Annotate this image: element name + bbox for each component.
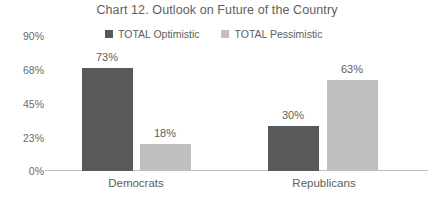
x-category-label-democrats: Democrats bbox=[108, 177, 164, 189]
y-tick-23: 23% bbox=[2, 132, 44, 144]
bar-label-democrats-optimistic: 73% bbox=[96, 51, 118, 63]
chart-title: Chart 12. Outlook on Future of the Count… bbox=[0, 3, 434, 17]
bar-democrats-optimistic[interactable] bbox=[82, 68, 133, 171]
bar-label-republicans-pessimistic: 63% bbox=[341, 63, 363, 75]
bar-label-democrats-pessimistic: 18% bbox=[154, 127, 176, 139]
bar-label-republicans-optimistic: 30% bbox=[282, 109, 304, 121]
bar-republicans-optimistic[interactable] bbox=[268, 126, 319, 171]
y-axis: 90% 68% 45% 23% 0% bbox=[0, 0, 44, 202]
y-tick-0: 0% bbox=[2, 165, 44, 177]
y-tick-90: 90% bbox=[2, 30, 44, 42]
y-tick-68: 68% bbox=[2, 64, 44, 76]
plot-area: 73% 18% 30% 63% bbox=[45, 32, 428, 171]
bar-republicans-pessimistic[interactable] bbox=[327, 80, 378, 171]
x-category-label-republicans: Republicans bbox=[292, 177, 355, 189]
y-tick-45: 45% bbox=[2, 98, 44, 110]
bar-democrats-pessimistic[interactable] bbox=[140, 144, 191, 171]
bar-chart: Chart 12. Outlook on Future of the Count… bbox=[0, 0, 434, 202]
